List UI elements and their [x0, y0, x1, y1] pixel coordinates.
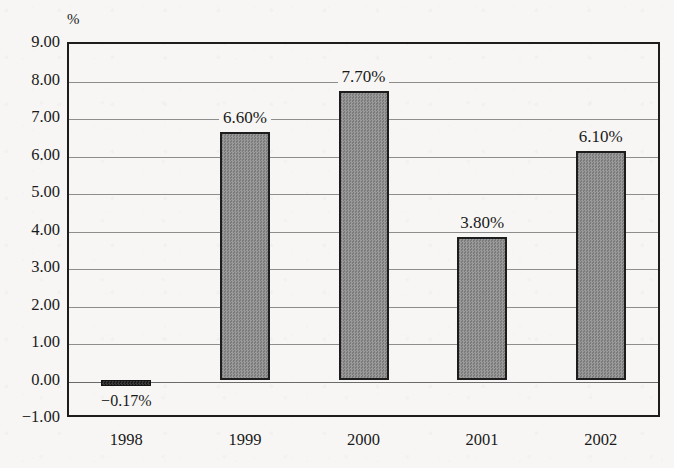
y-axis-tick-label: 3.00 [0, 259, 60, 276]
x-axis-tick-label-1999: 1999 [228, 432, 261, 449]
bar-2002 [576, 151, 626, 380]
y-axis-tick-label: 5.00 [0, 184, 60, 201]
value-label-1999: 6.60% [219, 109, 271, 126]
y-axis-tick-label: 6.00 [0, 146, 60, 163]
value-label-2002: 6.10% [575, 128, 627, 145]
bar-1999 [220, 132, 270, 380]
y-axis-tick-label: 9.00 [0, 34, 60, 51]
x-axis-tick-label-2001: 2001 [466, 432, 499, 449]
bar-2001 [457, 237, 507, 380]
y-axis-unit-label: % [67, 12, 80, 27]
y-axis-tick-label: 8.00 [0, 71, 60, 88]
bar-2000 [339, 91, 389, 380]
y-axis-tick-label: 1.00 [0, 334, 60, 351]
x-axis-tick-labels: 19981999200020012002 [67, 432, 660, 460]
y-axis-tick-labels: 9.008.007.006.005.004.003.002.001.000.00… [0, 42, 60, 417]
x-axis-tick-label-2000: 2000 [347, 432, 380, 449]
y-axis-tick-label: −1.00 [0, 409, 60, 426]
value-label-2001: 3.80% [456, 214, 508, 231]
bar-1998 [101, 380, 151, 386]
value-label-1998: −0.17% [97, 393, 155, 409]
value-label-2000: 7.70% [338, 68, 390, 85]
x-axis-tick-label-1998: 1998 [110, 432, 143, 449]
bars-layer [67, 42, 660, 417]
y-axis-tick-label: 7.00 [0, 109, 60, 126]
y-axis-tick-label: 2.00 [0, 296, 60, 313]
x-axis-tick-label-2002: 2002 [584, 432, 617, 449]
bar-chart: % 9.008.007.006.005.004.003.002.001.000.… [0, 0, 674, 468]
y-axis-tick-label: 0.00 [0, 371, 60, 388]
y-axis-tick-label: 4.00 [0, 221, 60, 238]
